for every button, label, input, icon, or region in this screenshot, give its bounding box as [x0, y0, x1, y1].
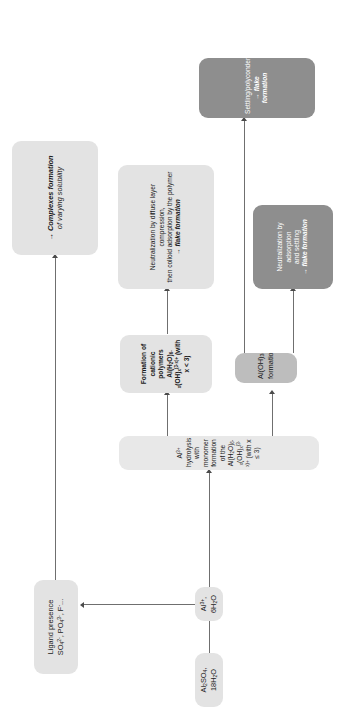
node-complexes-label: → Complexes formation of varying solubil…: [46, 145, 65, 251]
node-alum-label: Al2SO4, 18H2O: [199, 657, 218, 703]
node-complexes-line1: → Complexes formation: [46, 145, 55, 251]
node-hydrolysis-label: Al3+ hydrolysis with monomer formation o…: [176, 439, 261, 467]
node-ligand[interactable]: Ligand presence SO42-, PO43-, F-...: [34, 580, 78, 674]
diagram-rotator: Al2SO4, 18H2O Al3+, 6H2O Ligand presence…: [0, 0, 338, 713]
node-settling[interactable]: Settling/polycondensation → flake format…: [199, 58, 315, 118]
node-neutralization-adsorption-line1: Neutralization by adsorption: [276, 209, 293, 285]
edge-al-ion-to-hydrolysis: [209, 471, 210, 589]
edge-hydrolysis-to-cationic-polymers: [167, 394, 168, 437]
node-neutralization-diffuse[interactable]: Neutralization by diffuse layer compress…: [118, 165, 214, 289]
node-alum[interactable]: Al2SO4, 18H2O: [195, 653, 223, 707]
edge-aloh3-to-settling: [244, 120, 245, 353]
node-ligand-line1: Ligand presence: [46, 584, 55, 670]
edge-alum-to-al-ion: [209, 619, 210, 655]
node-neutralization-adsorption[interactable]: Neutralization by adsorption and settlin…: [253, 205, 333, 289]
edge-ligand-to-complexes: [55, 257, 56, 580]
edge-al-ion-to-ligand-arrow: [80, 602, 84, 608]
node-neutralization-adsorption-line3: → flake formation: [301, 209, 309, 285]
node-aloh3[interactable]: Al(OH)3(s) formation: [235, 353, 297, 383]
node-al-ion[interactable]: Al3+, 6H2O: [195, 587, 223, 621]
node-neutralization-diffuse-line3: → flake formation: [174, 169, 182, 285]
node-ligand-label: Ligand presence SO42-, PO43-, F-...: [46, 584, 65, 670]
node-neutralization-diffuse-line2: then colloid adsorption by the polymer: [166, 169, 174, 285]
edge-al-ion-to-ligand-vert: [84, 604, 199, 605]
edge-cationic-polymers-to-neutralization-diffuse: [167, 290, 168, 334]
node-complexes[interactable]: → Complexes formation of varying solubil…: [12, 141, 98, 255]
edge-aloh3-to-neutralization-adsorption: [293, 290, 294, 353]
edge-hydrolysis-to-aloh3-arrow: [269, 390, 275, 394]
edge-hydrolysis-to-aloh3: [272, 393, 273, 437]
node-cationic-polymers-label: Formation of cationic polymers Al(H2O)6-…: [140, 339, 191, 389]
node-neutralization-diffuse-label: Neutralization by diffuse layer compress…: [149, 169, 183, 285]
node-settling-label: Settling/polycondensation → flake format…: [244, 62, 269, 114]
node-settling-line1: Settling/polycondensation: [244, 62, 252, 114]
node-neutralization-diffuse-line1: Neutralization by diffuse layer compress…: [149, 169, 166, 285]
node-neutralization-adsorption-label: Neutralization by adsorption and settlin…: [276, 209, 310, 285]
node-hydrolysis[interactable]: Al3+ hydrolysis with monomer formation o…: [119, 436, 319, 470]
flowchart-canvas: Al2SO4, 18H2O Al3+, 6H2O Ligand presence…: [0, 0, 338, 713]
node-settling-line2: → flake formation: [253, 62, 270, 114]
node-cationic-polymers[interactable]: Formation of cationic polymers Al(H2O)6-…: [120, 335, 212, 393]
node-al-ion-label: Al3+, 6H2O: [199, 591, 218, 617]
node-neutralization-adsorption-line2: and settling: [293, 209, 301, 285]
node-aloh3-label: Al(OH)3(s) formation: [256, 357, 275, 379]
node-ligand-line2: SO42-, PO43-, F-...: [56, 584, 66, 670]
node-cationic-polymers-line2: Al(H2O)6-x(OH)x(3-x)+ (with x < 3): [166, 339, 192, 389]
node-complexes-line2: of varying solubility: [55, 145, 64, 251]
node-cationic-polymers-line1: Formation of cationic polymers: [140, 339, 165, 389]
